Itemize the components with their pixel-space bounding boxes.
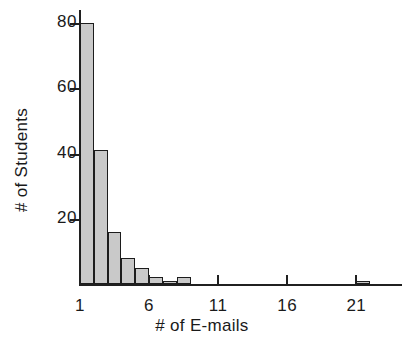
histogram-bar xyxy=(135,268,149,284)
x-tick-mark xyxy=(355,275,357,286)
histogram-bar xyxy=(94,150,108,284)
y-tick-label: 60 xyxy=(57,77,77,97)
histogram-bar xyxy=(108,232,122,284)
histogram-bar xyxy=(177,277,191,284)
plot-area: 20406080 16111621 xyxy=(80,10,384,284)
x-tick-label: 16 xyxy=(267,296,307,316)
x-tick-label: 21 xyxy=(336,296,376,316)
x-tick-label: 1 xyxy=(60,296,100,316)
x-tick-mark xyxy=(79,275,81,286)
y-tick-label: 80 xyxy=(57,12,77,32)
histogram-bar xyxy=(149,277,163,284)
x-tick-mark xyxy=(286,275,288,286)
x-axis-line xyxy=(79,284,402,286)
x-tick-mark xyxy=(217,275,219,286)
y-tick-label: 40 xyxy=(57,143,77,163)
histogram-bar xyxy=(163,281,177,284)
histogram-bar xyxy=(121,258,135,284)
x-tick-mark xyxy=(148,275,150,286)
x-tick-label: 6 xyxy=(129,296,169,316)
histogram-bar xyxy=(80,23,94,284)
x-axis-title: # of E-mails xyxy=(0,316,404,336)
histogram-figure: 20406080 16111621 # of Students # of E-m… xyxy=(0,0,404,344)
y-tick-label: 20 xyxy=(57,208,77,228)
x-tick-label: 11 xyxy=(198,296,238,316)
y-axis-title: # of Students xyxy=(12,80,32,240)
histogram-bar xyxy=(356,281,370,284)
